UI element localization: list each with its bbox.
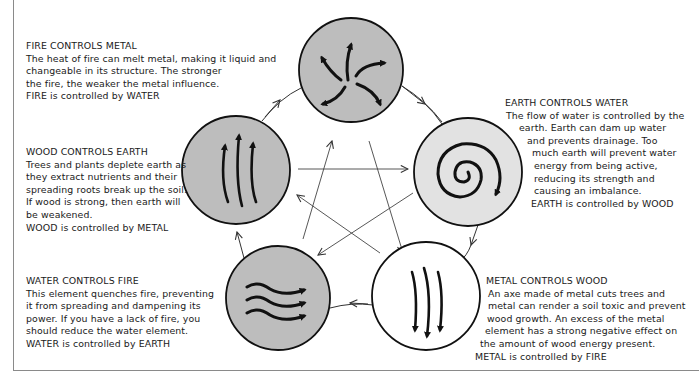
earth-line: causing an imbalance. [505, 185, 684, 198]
fire-block-title: FIRE CONTROLS METAL [26, 40, 276, 53]
fire-line: changeable in its structure. The stronge… [26, 65, 276, 78]
water-block-title: WATER CONTROLS FIRE [26, 275, 214, 288]
water-circle [226, 246, 330, 350]
water-controls-fire-text: WATER CONTROLS FIRE This element quenche… [26, 275, 214, 351]
water-line: it from spreading and dampening its [26, 300, 214, 313]
fire-controls-metal-text: FIRE CONTROLS METAL The heat of fire can… [26, 40, 276, 103]
metal-line: An axe made of metal cuts trees and [475, 288, 686, 301]
earth-block-title: EARTH CONTROLS WATER [505, 97, 684, 110]
metal-line: element has a strong negative effect on [475, 325, 686, 338]
water-line: WATER is controlled by EARTH [26, 338, 214, 351]
earth-line: much earth will prevent water [505, 147, 684, 160]
metal-line: METAL is controlled by FIRE [475, 351, 686, 364]
wood-line: be weakened. [26, 209, 187, 222]
fire-circle [299, 18, 403, 122]
earth-line: EARTH is controlled by WOOD [505, 198, 684, 211]
wood-controls-earth-text: WOOD CONTROLS EARTH Trees and plants dep… [26, 146, 187, 234]
earth-controls-water-text: EARTH CONTROLS WATER The flow of water i… [505, 97, 684, 210]
water-line: power. If you have a lack of fire, you [26, 313, 214, 326]
metal-circle [372, 242, 480, 350]
earth-line: and prevents drainage. Too [505, 135, 684, 148]
metal-line: the amount of wood energy present. [475, 338, 686, 351]
wood-line: Trees and plants deplete earth as [26, 159, 187, 172]
arrow-water-to-fire [303, 141, 332, 239]
wood-line: they extract nutrients and their [26, 171, 187, 184]
water-line: This element quenches fire, preventing [26, 288, 214, 301]
fire-line: The heat of fire can melt metal, making … [26, 53, 276, 66]
wood-block-title: WOOD CONTROLS EARTH [26, 146, 187, 159]
fire-line: the fire, the weaker the metal influence… [26, 78, 276, 91]
metal-block-title: METAL CONTROLS WOOD [475, 275, 686, 288]
fire-line: FIRE is controlled by WATER [26, 90, 276, 103]
wood-circle [182, 116, 290, 224]
wood-line: spreading roots break up the soil. [26, 184, 187, 197]
arrow-fire-to-metal [369, 141, 403, 253]
water-line: should reduce the water element. [26, 325, 214, 338]
earth-line: earth. Earth can dam up water [505, 122, 684, 135]
arrow-earth-to-water [318, 193, 413, 255]
arrow-metal-to-wood [297, 195, 380, 253]
metal-controls-wood-text: METAL CONTROLS WOOD An axe made of metal… [475, 275, 686, 363]
earth-line: energy from being active, [505, 160, 684, 173]
arrow-earth-to-metal [471, 225, 478, 245]
metal-line: wood growth. An excess of the metal [475, 313, 686, 326]
metal-line: metal can render a soil toxic and preven… [475, 300, 686, 313]
earth-line: reducing its strength and [505, 173, 684, 186]
star-arrows [297, 141, 413, 255]
earth-line: The flow of water is controlled by the [505, 110, 684, 123]
arrow-water-to-wood [237, 232, 244, 258]
arrow-fire-to-earth [402, 86, 442, 122]
wood-line: If wood is strong, then earth will [26, 196, 187, 209]
arrow-metal-to-water [330, 304, 373, 308]
wood-line: WOOD is controlled by METAL [26, 222, 187, 235]
